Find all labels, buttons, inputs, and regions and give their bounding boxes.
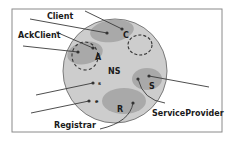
- client-label: Client: [47, 12, 73, 21]
- registrar-dot: [131, 101, 134, 104]
- registrar-region: [102, 88, 146, 114]
- marker-s-dot: [91, 81, 94, 84]
- ackclient-dot-1: [91, 46, 94, 49]
- ackclient-dot-2: [76, 50, 79, 53]
- serviceprovider-region-label: S: [149, 82, 155, 91]
- marker-e-label: e: [95, 98, 99, 104]
- ackclient-region-label: A: [95, 53, 102, 62]
- serviceprovider-label: ServiceProvider: [152, 109, 224, 118]
- client-region-label: C: [123, 31, 129, 40]
- ackclient-label: AckClient: [18, 31, 61, 40]
- registrar-region-label: R: [117, 105, 123, 114]
- registrar-label: Registrar: [54, 121, 96, 130]
- ns-center-label: NS: [108, 67, 121, 76]
- serviceprovider-dot-2: [136, 77, 139, 80]
- marker-e-dot: [87, 99, 90, 102]
- client-dot-1: [105, 31, 108, 34]
- marker-s-label: s: [98, 80, 101, 86]
- diagram-canvas: C A S R NS s e Client AckClient Registra…: [0, 0, 234, 143]
- serviceprovider-dot-1: [147, 74, 150, 77]
